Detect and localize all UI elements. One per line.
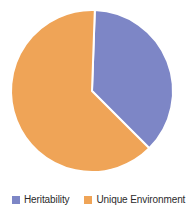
pie-slices <box>11 10 173 172</box>
legend-label-unique-environment: Unique Environment <box>96 194 185 205</box>
legend-item-heritability[interactable]: Heritability <box>12 194 69 205</box>
legend-swatch-heritability <box>12 196 20 204</box>
pie-chart-figure: Heritability Unique Environment <box>0 0 192 215</box>
chart-legend: Heritability Unique Environment <box>0 191 192 208</box>
legend-label-heritability: Heritability <box>24 194 69 205</box>
legend-item-unique-environment[interactable]: Unique Environment <box>84 194 185 205</box>
pie-chart-svg <box>0 0 192 182</box>
pie-plot-area <box>0 0 192 182</box>
legend-swatch-unique-environment <box>84 196 92 204</box>
